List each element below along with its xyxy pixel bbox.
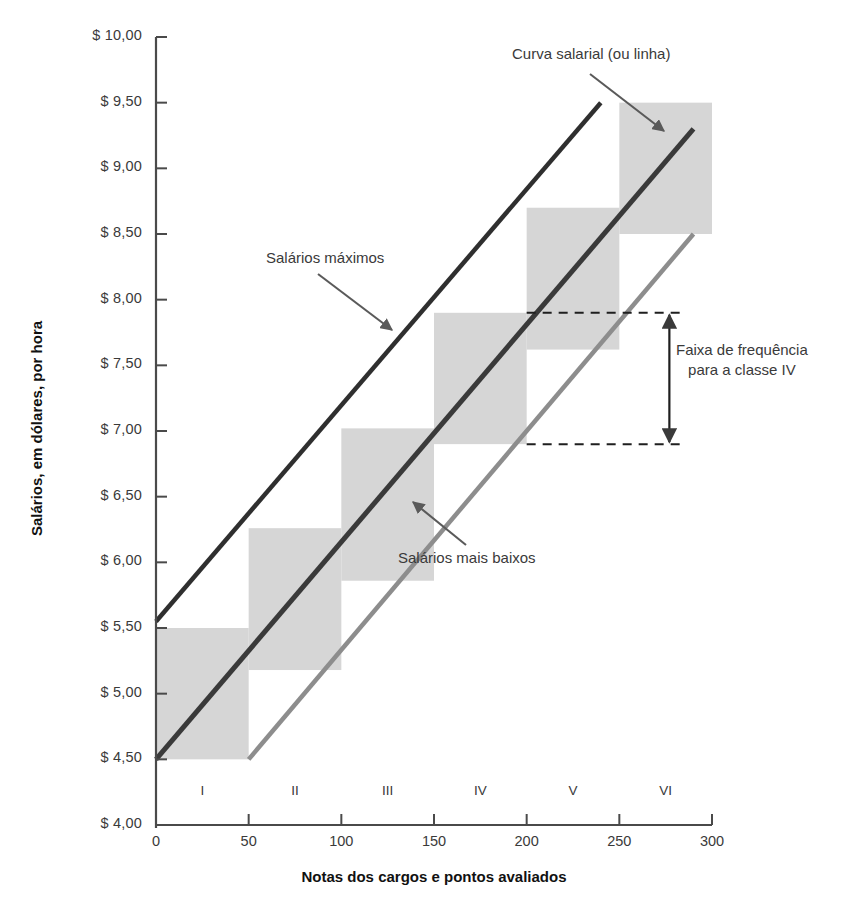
class-label-i: I bbox=[172, 783, 232, 798]
y-tick-label: $ 4,50 bbox=[30, 749, 142, 765]
y-tick-label: $ 8,00 bbox=[30, 290, 142, 306]
grade-box-vi bbox=[619, 103, 712, 234]
class-label-iv: IV bbox=[450, 783, 510, 798]
leader-salarios-maximos bbox=[318, 274, 392, 330]
y-tick-label: $ 6,00 bbox=[30, 552, 142, 568]
y-tick-label: $ 4,00 bbox=[30, 815, 142, 831]
class-label-ii: II bbox=[265, 783, 325, 798]
x-tick-label: 100 bbox=[311, 833, 371, 849]
annotation-faixa-frequencia: Faixa de frequência para a classe IV bbox=[676, 340, 808, 381]
annotation-salarios-maximos: Salários máximos bbox=[266, 248, 384, 268]
y-tick-label: $ 8,50 bbox=[30, 224, 142, 240]
y-tick-label: $ 10,00 bbox=[30, 27, 142, 43]
chart-plot-svg bbox=[0, 0, 860, 908]
x-tick-label: 300 bbox=[682, 833, 742, 849]
y-tick-label: $ 9,50 bbox=[30, 93, 142, 109]
y-tick-label: $ 7,50 bbox=[30, 355, 142, 371]
class-label-vi: VI bbox=[636, 783, 696, 798]
x-tick-label: 50 bbox=[219, 833, 279, 849]
annotation-curva-salarial: Curva salarial (ou linha) bbox=[512, 44, 670, 64]
x-axis-title: Notas dos cargos e pontos avaliados bbox=[156, 868, 712, 885]
y-tick-label: $ 6,50 bbox=[30, 487, 142, 503]
x-tick-label: 0 bbox=[126, 833, 186, 849]
annotation-faixa-line1: Faixa de frequência bbox=[676, 340, 808, 360]
annotation-salarios-mais-baixos: Salários mais baixos bbox=[398, 548, 536, 568]
annotation-faixa-line2: para a classe IV bbox=[676, 360, 808, 380]
y-axis-title: Salários, em dólares, por hora bbox=[28, 321, 45, 536]
y-tick-label: $ 7,00 bbox=[30, 421, 142, 437]
class-label-iii: III bbox=[358, 783, 418, 798]
x-tick-label: 250 bbox=[589, 833, 649, 849]
y-tick-label: $ 5,00 bbox=[30, 684, 142, 700]
x-tick-label: 200 bbox=[497, 833, 557, 849]
y-tick-label: $ 9,00 bbox=[30, 158, 142, 174]
x-tick-label: 150 bbox=[404, 833, 464, 849]
class-label-v: V bbox=[543, 783, 603, 798]
salary-curve-chart: $ 4,00$ 4,50$ 5,00$ 5,50$ 6,00$ 6,50$ 7,… bbox=[0, 0, 860, 908]
y-tick-label: $ 5,50 bbox=[30, 618, 142, 634]
